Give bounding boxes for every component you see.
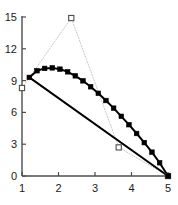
data-point-marker xyxy=(73,74,78,79)
x-tick-label: 4 xyxy=(128,182,134,194)
data-point-marker xyxy=(157,160,162,165)
y-tick-label: 9 xyxy=(11,75,17,87)
data-point-marker xyxy=(166,174,171,179)
data-point-marker xyxy=(142,140,147,145)
chart-background xyxy=(0,0,178,205)
data-point-marker xyxy=(111,106,116,111)
data-point-marker xyxy=(127,122,132,127)
data-point-marker xyxy=(81,79,86,84)
x-tick-label: 3 xyxy=(92,182,98,194)
y-tick-label: 0 xyxy=(11,170,17,182)
y-tick-label: 12 xyxy=(5,43,17,55)
data-point-marker xyxy=(116,145,121,150)
data-point-marker xyxy=(35,68,40,73)
data-point-marker xyxy=(58,67,63,72)
data-point-marker xyxy=(96,91,101,96)
data-point-marker xyxy=(119,114,124,119)
plot-canvas: 03691215 12345 xyxy=(0,0,178,205)
data-point-marker xyxy=(19,85,24,90)
data-point-marker xyxy=(65,70,70,75)
data-point-marker xyxy=(69,15,74,20)
data-point-marker xyxy=(27,75,32,80)
x-tick-label: 1 xyxy=(19,182,25,194)
data-point-marker xyxy=(104,98,109,103)
data-point-marker xyxy=(42,66,47,71)
data-point-marker xyxy=(50,66,55,71)
y-tick-label: 6 xyxy=(11,106,17,118)
data-point-marker xyxy=(134,131,139,136)
x-tick-label: 2 xyxy=(55,182,61,194)
y-tick-label: 15 xyxy=(5,11,17,23)
data-point-marker xyxy=(88,84,93,89)
chart-figure: 03691215 12345 xyxy=(0,0,178,205)
data-point-marker xyxy=(150,150,155,155)
x-tick-label: 5 xyxy=(165,182,171,194)
y-tick-label: 3 xyxy=(11,138,17,150)
